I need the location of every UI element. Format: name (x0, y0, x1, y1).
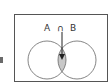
set-b-label: B (70, 23, 76, 33)
set-a-label: A (44, 23, 51, 33)
venn-diagram: A ∩ B (0, 0, 108, 82)
intersection-operator: ∩ (57, 23, 64, 33)
